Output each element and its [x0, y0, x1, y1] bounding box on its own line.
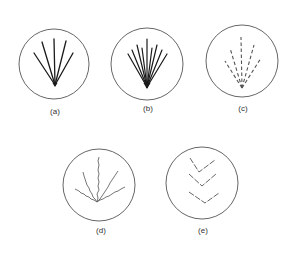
panel-e: (e) [166, 147, 238, 235]
panel-e-label: (e) [198, 226, 208, 235]
panel-d-wavy-lines [75, 157, 125, 202]
panel-b: (b) [111, 28, 183, 113]
panel-b-fan-lines [128, 39, 167, 89]
panel-a: (a) [19, 29, 89, 116]
panel-b-label: (b) [143, 104, 153, 113]
panel-e-chevrons [189, 158, 219, 203]
panel-d-circle [63, 149, 135, 221]
diagram-figure: (a) (b) (c) [0, 0, 297, 257]
panel-a-fan-lines [34, 39, 73, 87]
panel-c-label: (c) [238, 104, 248, 113]
panel-a-label: (a) [50, 107, 60, 116]
panel-e-circle [166, 147, 238, 219]
panel-d: (d) [63, 149, 135, 235]
panel-c-dashed-lines [225, 37, 261, 88]
panel-d-label: (d) [96, 226, 106, 235]
panel-c: (c) [206, 25, 278, 113]
